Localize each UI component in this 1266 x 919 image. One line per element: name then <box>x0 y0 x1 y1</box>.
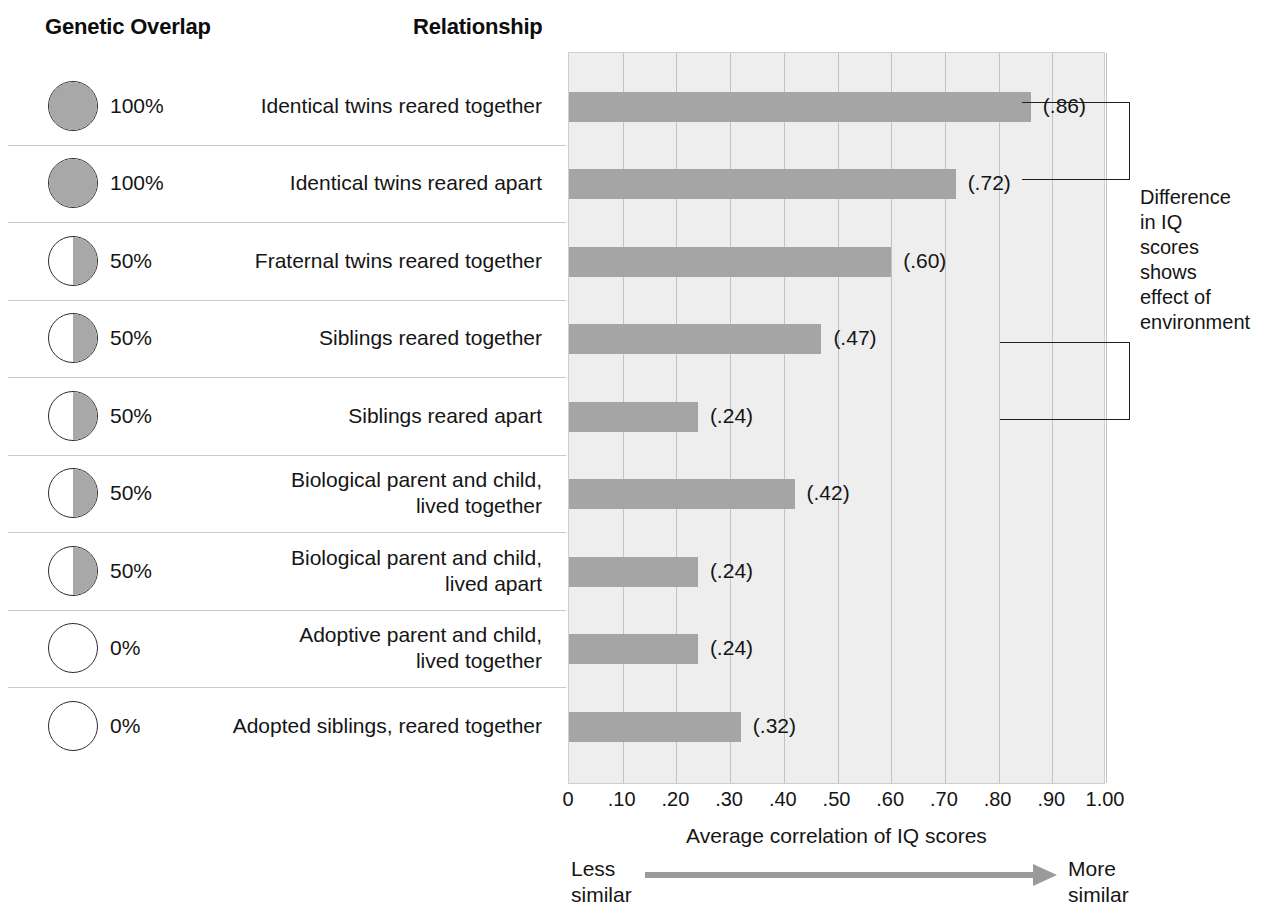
bar[interactable] <box>569 324 821 354</box>
bracket-identical-twins <box>1022 102 1130 180</box>
similarity-arrow-line <box>645 872 1035 878</box>
x-axis-tick-label: .90 <box>1037 788 1065 811</box>
bar[interactable] <box>569 479 795 509</box>
table-row[interactable]: 0%Adopted siblings, reared together <box>0 687 566 765</box>
table-row[interactable]: 0%Adoptive parent and child, lived toget… <box>0 610 566 688</box>
relationship-label: Biological parent and child, lived toget… <box>291 467 542 519</box>
column-header-relationship: Relationship <box>413 14 543 40</box>
bracket-siblings <box>1000 342 1130 420</box>
relationship-label: Identical twins reared together <box>261 93 542 119</box>
genetic-overlap-circle-icon <box>48 81 98 131</box>
gridline <box>838 53 839 783</box>
bar-value-label: (.72) <box>968 171 1011 195</box>
table-row[interactable]: 100%Identical twins reared apart <box>0 145 566 223</box>
column-header-genetic-overlap: Genetic Overlap <box>45 14 211 40</box>
table-row[interactable]: 50%Siblings reared together <box>0 300 566 378</box>
table-row[interactable]: 50%Biological parent and child, lived to… <box>0 455 566 533</box>
relationship-label: Siblings reared apart <box>348 403 542 429</box>
genetic-overlap-circle-icon <box>48 546 98 596</box>
x-axis-tick-label: .30 <box>715 788 743 811</box>
bar[interactable] <box>569 712 741 742</box>
relationship-label: Fraternal twins reared together <box>255 248 542 274</box>
bar[interactable] <box>569 169 956 199</box>
genetic-overlap-percent: 50% <box>110 249 152 273</box>
table-row[interactable]: 50%Biological parent and child, lived ap… <box>0 532 566 610</box>
chart-page: Genetic Overlap Relationship 100%Identic… <box>0 0 1266 919</box>
genetic-overlap-percent: 50% <box>110 404 152 428</box>
bar-value-label: (.32) <box>753 714 796 738</box>
bar-value-label: (.24) <box>710 404 753 428</box>
x-axis-tick-label: .10 <box>608 788 636 811</box>
x-axis-tick-label: .40 <box>769 788 797 811</box>
x-axis-tick-labels: 0.10.20.30.40.50.60.70.80.901.00 <box>568 788 1105 814</box>
bar[interactable] <box>569 402 698 432</box>
circle-fill-half <box>73 392 97 440</box>
circle-fill-half <box>73 547 97 595</box>
x-axis-tick-label: .50 <box>823 788 851 811</box>
relationship-label: Biological parent and child, lived apart <box>291 545 542 597</box>
relationship-table: 100%Identical twins reared together100%I… <box>0 67 566 767</box>
genetic-overlap-circle-icon <box>48 623 98 673</box>
genetic-overlap-percent: 100% <box>110 94 164 118</box>
circle-fill-full <box>49 159 97 207</box>
circle-fill-full <box>49 82 97 130</box>
genetic-overlap-percent: 0% <box>110 714 140 738</box>
x-axis-tick-label: .60 <box>876 788 904 811</box>
genetic-overlap-circle-icon <box>48 158 98 208</box>
circle-fill-half <box>73 314 97 362</box>
genetic-overlap-percent: 50% <box>110 481 152 505</box>
bar[interactable] <box>569 92 1031 122</box>
bar[interactable] <box>569 557 698 587</box>
bar-value-label: (.42) <box>807 481 850 505</box>
bar[interactable] <box>569 634 698 664</box>
table-row[interactable]: 50%Fraternal twins reared together <box>0 222 566 300</box>
bar[interactable] <box>569 247 891 277</box>
x-axis-tick-label: .70 <box>930 788 958 811</box>
table-row[interactable]: 100%Identical twins reared together <box>0 67 566 145</box>
genetic-overlap-percent: 0% <box>110 636 140 660</box>
relationship-label: Adoptive parent and child, lived togethe… <box>299 622 542 674</box>
x-axis-tick-label: 0 <box>562 788 573 811</box>
x-axis-tick-label: .20 <box>661 788 689 811</box>
genetic-overlap-circle-icon <box>48 391 98 441</box>
relationship-label: Siblings reared together <box>319 325 542 351</box>
axis-end-less-similar: Less similar <box>571 856 632 908</box>
environment-effect-annotation: Difference in IQ scores shows effect of … <box>1140 185 1266 335</box>
bar-value-label: (.47) <box>833 326 876 350</box>
x-axis-tick-label: 1.00 <box>1086 788 1125 811</box>
bar-value-label: (.60) <box>903 249 946 273</box>
axis-end-more-similar: More similar <box>1068 856 1129 908</box>
bar-value-label: (.24) <box>710 559 753 583</box>
genetic-overlap-circle-icon <box>48 236 98 286</box>
gridline <box>945 53 946 783</box>
table-row[interactable]: 50%Siblings reared apart <box>0 377 566 455</box>
genetic-overlap-circle-icon <box>48 313 98 363</box>
similarity-arrow-head <box>1033 864 1057 886</box>
circle-fill-half <box>73 237 97 285</box>
genetic-overlap-percent: 100% <box>110 171 164 195</box>
bar-value-label: (.24) <box>710 636 753 660</box>
circle-fill-half <box>73 469 97 517</box>
genetic-overlap-circle-icon <box>48 701 98 751</box>
gridline <box>891 53 892 783</box>
x-axis-title: Average correlation of IQ scores <box>568 824 1105 848</box>
relationship-label: Identical twins reared apart <box>290 170 542 196</box>
genetic-overlap-percent: 50% <box>110 559 152 583</box>
x-axis-tick-label: .80 <box>984 788 1012 811</box>
genetic-overlap-circle-icon <box>48 468 98 518</box>
genetic-overlap-percent: 50% <box>110 326 152 350</box>
gridline <box>784 53 785 783</box>
relationship-label: Adopted siblings, reared together <box>233 713 542 739</box>
